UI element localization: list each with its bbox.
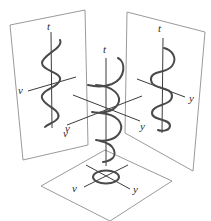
center-y-label: y xyxy=(139,120,145,132)
right-y-label: y xyxy=(188,92,194,104)
left-v-bottom-label: v xyxy=(63,127,68,139)
right-panel: t y xyxy=(125,12,205,171)
center-t-label: t xyxy=(103,43,107,55)
helix-lower-front xyxy=(96,113,121,141)
left-panel: t v xyxy=(10,10,88,160)
bottom-y-label: y xyxy=(132,183,138,195)
left-v-label: v xyxy=(18,84,23,96)
bottom-v-label: v xyxy=(72,182,77,194)
helix-projection-diagram: t v t y v y t v y v xyxy=(0,0,211,221)
